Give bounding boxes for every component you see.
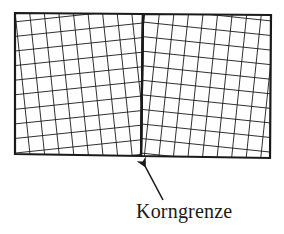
- grain-boundary-line: [141, 14, 143, 156]
- arrow-icon: [145, 166, 163, 200]
- right-grain-outline: [141, 14, 271, 158]
- grain-boundary-label: Korngrenze: [136, 200, 232, 223]
- grain-boundary-diagram: [0, 0, 284, 234]
